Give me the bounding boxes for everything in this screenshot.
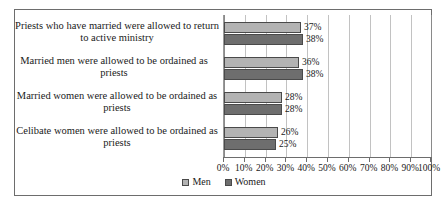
gridline-60 [349, 15, 350, 157]
x-axis-tick-labels: 0% 10% 20% 30% 40% 50% 60% 70% 80% 90% 1… [209, 163, 441, 176]
chart-frame: 37% 38% 36% 38% 28% 28% 26% 25% Priests … [14, 9, 432, 196]
bar-value-men-2: 28% [285, 92, 302, 102]
bar-value-women-3: 25% [279, 139, 296, 149]
legend-label-women: Women [235, 176, 266, 188]
bar-women-1[interactable] [224, 69, 303, 80]
legend-item-women[interactable]: Women [225, 176, 266, 188]
legend-label-men: Men [192, 176, 210, 188]
legend-swatch-men-icon [182, 179, 189, 186]
category-label-3: Celibate women were allowed to be ordain… [15, 125, 219, 149]
gridline-90 [411, 15, 412, 157]
bar-men-3[interactable] [224, 127, 278, 138]
category-label-2: Married women were allowed to be ordaine… [15, 90, 219, 114]
bar-women-3[interactable] [224, 139, 276, 150]
gridline-80 [390, 15, 391, 157]
bar-men-1[interactable] [224, 57, 299, 68]
gridline-70 [370, 15, 371, 157]
bar-women-0[interactable] [224, 34, 303, 45]
bar-men-0[interactable] [224, 22, 301, 33]
bar-women-2[interactable] [224, 104, 282, 115]
category-axis-labels: Priests who have married were allowed to… [15, 15, 223, 157]
legend-swatch-women-icon [225, 179, 232, 186]
chart-legend: Men Women [15, 176, 433, 188]
bar-value-women-0: 38% [306, 34, 323, 44]
x-tick-label-10: 100% [416, 163, 442, 174]
bar-men-2[interactable] [224, 92, 282, 103]
gridline-100 [431, 15, 432, 157]
bar-value-women-2: 28% [285, 104, 302, 114]
bar-value-men-1: 36% [302, 57, 319, 67]
gridline-50 [328, 15, 329, 157]
bar-value-men-3: 26% [281, 127, 298, 137]
plot-area: 37% 38% 36% 38% 28% 28% 26% 25% [223, 15, 431, 157]
bar-value-men-0: 37% [304, 22, 321, 32]
category-label-1: Married men were allowed to be ordained … [9, 55, 219, 79]
legend-item-men[interactable]: Men [182, 176, 210, 188]
category-label-0: Priests who have married were allowed to… [15, 20, 219, 44]
bar-value-women-1: 38% [306, 69, 323, 79]
